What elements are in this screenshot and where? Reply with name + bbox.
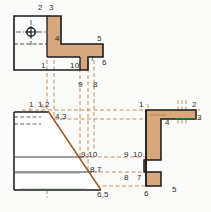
top-view-fill-step: [80, 57, 88, 70]
label-top-7: 7: [90, 55, 95, 63]
label-top-3: 3: [49, 4, 54, 12]
side-view-fill: [144, 110, 196, 186]
label-side-8: 8: [124, 174, 129, 182]
label-top-4: 4: [55, 35, 60, 43]
label-top-9: 9: [78, 81, 83, 89]
label-side-10: 10: [133, 151, 142, 159]
label-front-9-10: 9,10: [81, 151, 97, 159]
label-side-9: 9: [124, 151, 129, 159]
label-top-6: 6: [102, 59, 107, 67]
label-top-5: 5: [97, 35, 102, 43]
label-side-7: 7: [137, 174, 142, 182]
label-front-6-5: 6,5: [97, 191, 109, 199]
label-front-1-2: 1,2: [38, 101, 50, 109]
side-view: [144, 110, 196, 186]
label-side-2: 2: [192, 101, 197, 109]
label-front-8-7: 8,7: [90, 166, 102, 174]
label-top-10: 10: [70, 62, 79, 70]
label-top-1: 1: [41, 62, 46, 70]
label-side-5: 5: [172, 186, 177, 194]
label-side-6: 6: [144, 190, 149, 198]
label-side-4: 4: [165, 119, 170, 127]
label-front-4-3: 4,3: [55, 113, 67, 121]
label-top-2: 2: [38, 4, 43, 12]
label-top-8: 8: [93, 81, 98, 89]
label-side-1: 1: [139, 101, 144, 109]
label-front-tick-1: 1: [29, 101, 34, 109]
technical-drawing-canvas: 2 3 4 5 7 6 1 10 9 8 1 1,2 4,3 9,10 8,7 …: [0, 0, 211, 212]
label-side-3: 3: [197, 114, 202, 122]
